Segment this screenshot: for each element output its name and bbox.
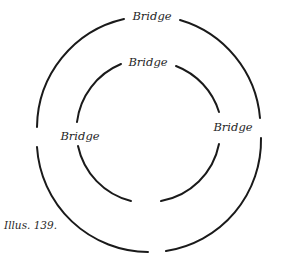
inner-arc-bottom-left [78, 146, 131, 201]
outer-arc-bottom-left [37, 147, 148, 252]
inner-right-bridge-label: Bridge [212, 120, 252, 134]
concentric-rings-diagram: Bridge Bridge Bridge Bridge Illus. 139. [0, 0, 284, 262]
outer-arc-top-right [180, 20, 260, 118]
figure-caption: Illus. 139. [3, 219, 57, 231]
inner-arc-top-left [77, 64, 121, 122]
inner-top-bridge-label: Bridge [127, 55, 167, 69]
inner-arc-top-right [176, 66, 219, 112]
inner-left-bridge-label: Bridge [59, 129, 99, 143]
outer-arc-top-left [37, 19, 124, 127]
inner-arc-bottom-right [161, 144, 219, 201]
outer-top-bridge-label: Bridge [131, 9, 171, 23]
